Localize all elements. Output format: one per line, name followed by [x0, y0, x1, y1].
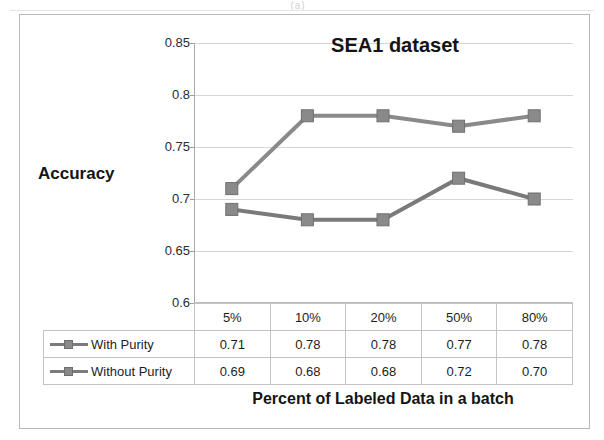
data-point-with-purity-50pct: [453, 120, 465, 132]
cell-with-purity-10pct: 0.78: [270, 331, 346, 358]
cell-with-purity-50pct: 0.77: [421, 331, 497, 358]
y-axis-title: Accuracy: [38, 164, 115, 184]
table-header-10pct: 10%: [270, 304, 346, 331]
chart-title: SEA1 dataset: [250, 34, 540, 57]
data-point-without-purity-80pct: [528, 193, 540, 205]
series-without-purity: [226, 172, 540, 226]
legend-entry-with-purity: With Purity: [44, 331, 195, 358]
legend-marker-icon: [50, 338, 88, 350]
cell-with-purity-20pct: 0.78: [346, 331, 422, 358]
table-header-5pct: 5%: [195, 304, 271, 331]
series-with-purity: [226, 110, 540, 195]
cell-without-purity-20pct: 0.68: [346, 358, 422, 385]
data-point-without-purity-20pct: [377, 214, 389, 226]
table-row: Without Purity 0.69 0.68 0.68 0.72 0.70: [44, 358, 573, 385]
cell-without-purity-50pct: 0.72: [421, 358, 497, 385]
table-row: With Purity 0.71 0.78 0.78 0.77 0.78: [44, 331, 573, 358]
legend-entry-without-purity: Without Purity: [44, 358, 195, 385]
table-corner-cell: [44, 304, 195, 331]
legend-marker-icon: [50, 365, 88, 377]
cell-without-purity-5pct: 0.69: [195, 358, 271, 385]
table-header-row: 5% 10% 20% 50% 80%: [44, 304, 573, 331]
cell-without-purity-10pct: 0.68: [270, 358, 346, 385]
figure-root: (a) 0.85 0.8 0.75 0.7 0.65 0.6: [0, 0, 604, 440]
legend-label-without-purity: Without Purity: [91, 364, 172, 379]
cell-with-purity-80pct: 0.78: [497, 331, 573, 358]
data-point-with-purity-80pct: [528, 110, 540, 122]
data-table: 5% 10% 20% 50% 80% With Purity 0.71: [43, 303, 573, 385]
cell-without-purity-80pct: 0.70: [497, 358, 573, 385]
table-header-80pct: 80%: [497, 304, 573, 331]
data-point-with-purity-10pct: [301, 110, 313, 122]
table-header-20pct: 20%: [346, 304, 422, 331]
data-point-without-purity-5pct: [226, 203, 238, 215]
x-axis-title: Percent of Labeled Data in a batch: [194, 390, 572, 408]
data-point-with-purity-20pct: [377, 110, 389, 122]
table-header-50pct: 50%: [421, 304, 497, 331]
cell-with-purity-5pct: 0.71: [195, 331, 271, 358]
data-point-without-purity-50pct: [453, 172, 465, 184]
series-line-with-purity: [232, 116, 534, 189]
data-point-without-purity-10pct: [301, 214, 313, 226]
legend-label-with-purity: With Purity: [91, 337, 154, 352]
data-point-with-purity-5pct: [226, 183, 238, 195]
